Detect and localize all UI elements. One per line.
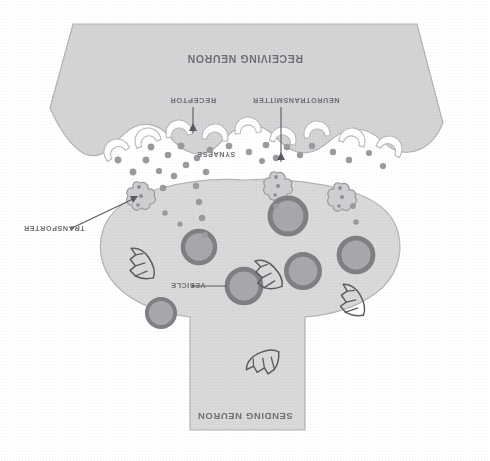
receiving-neuron — [50, 24, 443, 156]
vesicle-icon — [286, 254, 319, 287]
diagram-canvas: RECEIVING NEURON RECEPTOR NEUROTRANSMITT… — [0, 0, 490, 461]
vesicle-icon — [183, 231, 215, 263]
sending-neuron — [100, 179, 400, 430]
receptor-icon — [131, 124, 161, 148]
sending-neuron-body — [100, 179, 400, 430]
vesicle-icon — [339, 238, 373, 272]
transporter-leader-dot — [70, 226, 73, 229]
vesicle-icon — [147, 299, 175, 327]
vesicle-icon — [227, 269, 261, 303]
receiving-neuron-body — [50, 24, 443, 156]
synapse-diagram — [0, 0, 490, 461]
vesicle-leader-dot — [191, 284, 194, 287]
